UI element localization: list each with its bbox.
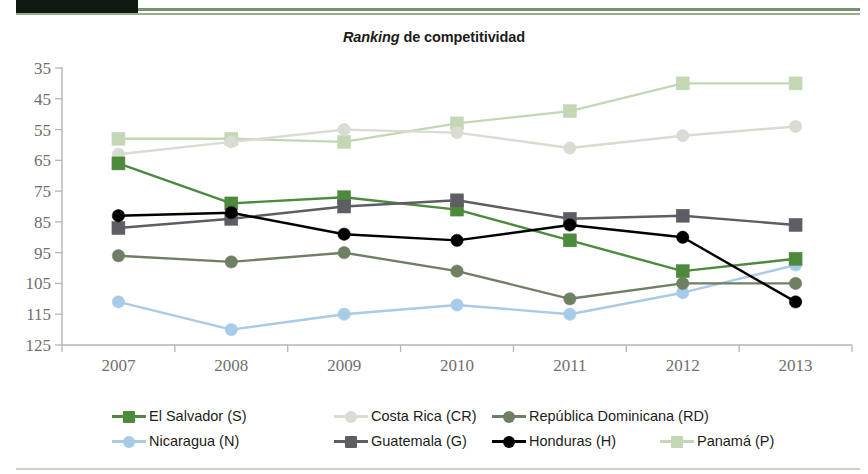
x-tick-label: 2007 (101, 356, 136, 375)
legend-item[interactable]: República Dominicana (RD) (492, 404, 709, 428)
data-point-marker (676, 77, 689, 90)
legend-label: Nicaragua (N) (149, 434, 239, 449)
legend-swatch-icon (660, 433, 694, 449)
x-tick-label: 2012 (666, 356, 700, 375)
x-tick-label-layer: 2007200820092010201120122013 (101, 356, 812, 375)
legend-row-1: El Salvador (S)Costa Rica (CR)República … (112, 404, 812, 428)
x-tick-label: 2013 (779, 356, 813, 375)
x-tick-label: 2011 (553, 356, 586, 375)
y-tick-label: 115 (26, 305, 51, 324)
series-cr (112, 120, 802, 160)
line-chart-svg: 35455565758595105115125 2007200820092010… (0, 0, 868, 474)
data-point-marker (112, 132, 125, 145)
data-point-marker (789, 77, 802, 90)
data-point-marker (112, 157, 125, 170)
data-point-marker (789, 120, 801, 132)
data-point-marker (451, 265, 463, 277)
legend-item[interactable]: Costa Rica (CR) (334, 404, 477, 428)
chart-plot-area: 35455565758595105115125 2007200820092010… (0, 0, 868, 474)
data-point-marker (789, 296, 801, 308)
legend-marker-square-icon (671, 436, 683, 448)
legend-marker-circle-icon (123, 436, 135, 448)
legend-marker-square-icon (123, 411, 135, 423)
data-point-marker (338, 200, 351, 213)
data-point-marker (564, 142, 576, 154)
data-point-marker (225, 323, 237, 335)
x-tick-label: 2010 (440, 356, 474, 375)
data-point-marker (451, 194, 464, 207)
data-point-marker (225, 136, 237, 148)
y-tick-label: 125 (26, 336, 52, 355)
data-point-marker (677, 277, 689, 289)
legend-swatch-icon (334, 433, 368, 449)
data-point-marker (789, 252, 802, 265)
legend-marker-square-icon (345, 436, 357, 448)
data-point-marker (564, 293, 576, 305)
legend-item[interactable]: El Salvador (S) (112, 404, 247, 428)
legend-row-2: Nicaragua (N)Guatemala (G)Honduras (H)Pa… (112, 429, 812, 453)
legend-item[interactable]: Guatemala (G) (334, 429, 467, 453)
data-point-marker (338, 308, 350, 320)
data-point-marker (789, 277, 801, 289)
data-point-marker (112, 210, 124, 222)
data-point-marker (112, 222, 125, 235)
legend-marker-circle-icon (503, 411, 515, 423)
series-rd (112, 246, 802, 305)
x-tick-label: 2009 (327, 356, 361, 375)
y-tick-label: 45 (34, 90, 51, 109)
legend-marker-circle-icon (345, 411, 357, 423)
data-point-marker (564, 308, 576, 320)
y-tick-label: 55 (34, 121, 51, 140)
data-point-marker (676, 265, 689, 278)
legend-item[interactable]: Nicaragua (N) (112, 429, 239, 453)
y-tick-label-layer: 35455565758595105115125 (26, 59, 52, 355)
data-point-marker (676, 209, 689, 222)
y-tick-label: 105 (26, 274, 52, 293)
legend-swatch-icon (492, 408, 526, 424)
legend-marker-circle-icon (503, 436, 515, 448)
legend-item[interactable]: Panamá (P) (660, 429, 774, 453)
data-point-marker (112, 296, 124, 308)
data-point-marker (338, 228, 350, 240)
series-h (112, 206, 802, 308)
data-point-marker (338, 123, 350, 135)
legend-swatch-icon (334, 408, 368, 424)
legend-swatch-icon (112, 433, 146, 449)
data-point-marker (563, 105, 576, 118)
chart-legend: El Salvador (S)Costa Rica (CR)República … (112, 404, 812, 460)
data-point-marker (338, 135, 351, 148)
y-tick-label: 35 (34, 59, 51, 78)
data-point-marker (225, 206, 237, 218)
legend-label: Panamá (P) (697, 434, 774, 449)
y-tick-label: 75 (34, 182, 51, 201)
y-tick-label: 95 (34, 244, 51, 263)
y-tick-label: 85 (34, 213, 51, 232)
legend-label: El Salvador (S) (149, 409, 247, 424)
data-point-marker (338, 246, 350, 258)
legend-label: Guatemala (G) (371, 434, 467, 449)
data-point-marker (225, 256, 237, 268)
data-point-marker (677, 130, 689, 142)
footer-rule (16, 468, 860, 470)
data-point-marker (451, 126, 463, 138)
legend-label: Honduras (H) (529, 434, 616, 449)
legend-label: República Dominicana (RD) (529, 409, 709, 424)
legend-swatch-icon (492, 433, 526, 449)
data-point-marker (451, 234, 463, 246)
chart-page: Ranking de competitividad 35455565758595… (0, 0, 868, 474)
data-point-marker (563, 234, 576, 247)
x-tick-label: 2008 (214, 356, 248, 375)
legend-item[interactable]: Honduras (H) (492, 429, 616, 453)
data-point-marker (451, 299, 463, 311)
data-point-marker (789, 218, 802, 231)
legend-label: Costa Rica (CR) (371, 409, 477, 424)
legend-swatch-icon (112, 408, 146, 424)
y-tick-label: 65 (34, 151, 51, 170)
data-point-marker (677, 231, 689, 243)
data-point-marker (112, 250, 124, 262)
data-point-marker (564, 219, 576, 231)
series-layer (112, 77, 802, 336)
